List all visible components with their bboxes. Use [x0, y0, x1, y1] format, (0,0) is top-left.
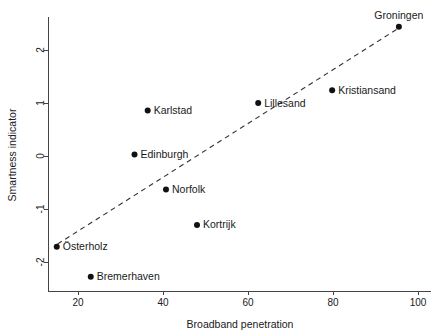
data-point-marker[interactable]	[163, 186, 169, 192]
data-points-group: GroningenKristiansandLillesandKarlstadEd…	[54, 9, 424, 283]
data-point-marker[interactable]	[255, 100, 261, 106]
x-axis-title: Broadband penetration	[187, 318, 294, 330]
data-point[interactable]: Kortrijk	[194, 218, 236, 230]
data-point[interactable]: Österholz	[54, 240, 108, 252]
regression-trendline	[58, 27, 401, 244]
data-point-label: Groningen	[374, 9, 423, 21]
x-axis-ticks: 20406080100	[72, 291, 426, 308]
y-axis-ticks: 210-1-2	[35, 47, 49, 267]
data-point-label: Edinburgh	[141, 148, 189, 160]
y-tick-label: -1	[35, 204, 46, 213]
chart-canvas: 210-1-2 20406080100 GroningenKristiansan…	[0, 0, 444, 335]
data-point-label: Österholz	[63, 240, 108, 252]
data-point[interactable]: Karlstad	[145, 104, 193, 116]
data-point[interactable]: Edinburgh	[132, 148, 189, 160]
data-point-marker[interactable]	[88, 274, 94, 280]
data-point-marker[interactable]	[396, 24, 402, 30]
data-point[interactable]: Norfolk	[163, 183, 206, 195]
data-point-label: Norfolk	[172, 183, 206, 195]
data-point-marker[interactable]	[132, 151, 138, 157]
data-point-label: Lillesand	[264, 97, 306, 109]
data-point-label: Kristiansand	[338, 84, 396, 96]
scatter-chart: 210-1-2 20406080100 GroningenKristiansan…	[0, 0, 444, 335]
data-point[interactable]: Groningen	[374, 9, 423, 30]
y-tick-label: 2	[35, 47, 46, 53]
data-point[interactable]: Bremerhaven	[88, 270, 160, 282]
y-tick-label: 1	[35, 100, 46, 106]
data-point-label: Bremerhaven	[97, 270, 160, 282]
trendline-group	[58, 27, 401, 244]
x-tick-label: 40	[157, 297, 169, 308]
data-point-label: Karlstad	[154, 104, 193, 116]
data-point-marker[interactable]	[145, 107, 151, 113]
x-tick-label: 80	[327, 297, 339, 308]
x-tick-label: 20	[72, 297, 84, 308]
y-tick-label: -2	[35, 257, 46, 266]
data-point-label: Kortrijk	[203, 218, 236, 230]
data-point-marker[interactable]	[329, 87, 335, 93]
y-axis-title: Smartness indicator	[6, 108, 18, 201]
x-tick-label: 60	[242, 297, 254, 308]
data-point-marker[interactable]	[194, 222, 200, 228]
y-tick-label: 0	[35, 153, 46, 159]
data-point-marker[interactable]	[54, 244, 60, 250]
x-tick-label: 100	[410, 297, 427, 308]
data-point[interactable]: Kristiansand	[329, 84, 396, 96]
data-point[interactable]: Lillesand	[255, 97, 306, 109]
